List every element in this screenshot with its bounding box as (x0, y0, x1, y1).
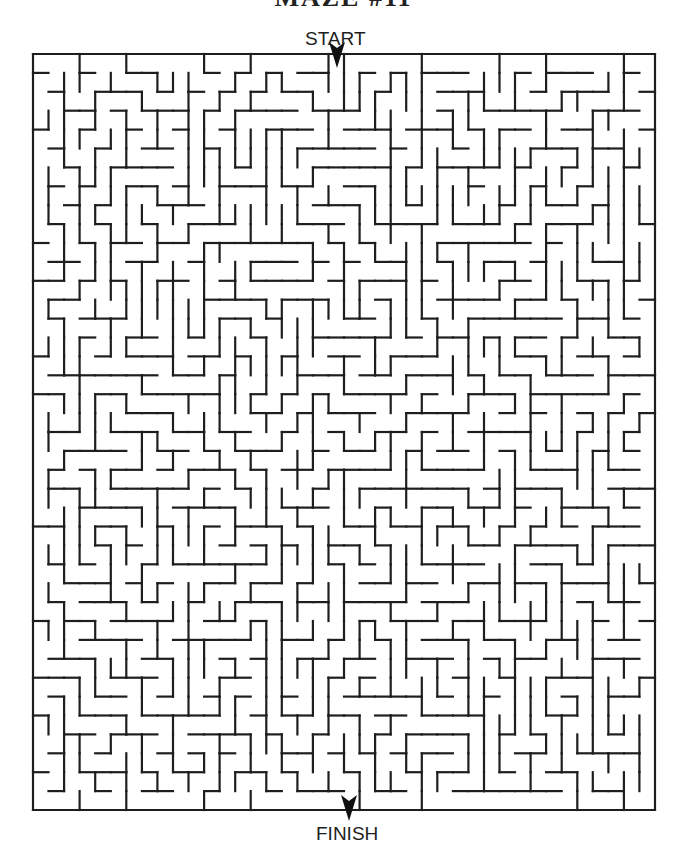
maze-board[interactable] (0, 0, 687, 862)
finish-label: FINISH (316, 824, 378, 843)
maze-walls (33, 54, 655, 810)
finish-arrow-icon (341, 795, 357, 821)
